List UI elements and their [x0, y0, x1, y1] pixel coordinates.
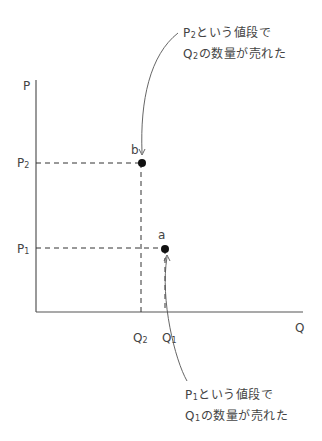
annotation-top-line2: Q2の数量が売れた [183, 45, 286, 66]
tick-q2: Q2 [133, 331, 148, 348]
annotation-bottom-line1: P1という値段で [185, 386, 288, 407]
callout-curve-top [142, 33, 178, 153]
point-a [161, 245, 169, 253]
x-axis-label: Q [295, 321, 304, 335]
annotation-top: P2という値段で Q2の数量が売れた [183, 24, 286, 66]
tick-q1: Q1 [162, 331, 177, 348]
tick-p2-sub: 2 [24, 161, 29, 170]
callout-curve-bottom [165, 257, 187, 381]
tick-p2: P2 [17, 156, 29, 173]
tick-p1-sub: 1 [24, 247, 29, 256]
annotation-bottom: P1という値段で Q1の数量が売れた [185, 386, 288, 428]
annotation-bottom-line2: Q1の数量が売れた [185, 407, 288, 428]
y-axis-label: P [23, 79, 30, 93]
point-a-label: a [158, 228, 165, 242]
diagram-canvas [0, 0, 322, 441]
tick-p1: P1 [17, 242, 29, 259]
point-b [138, 159, 146, 167]
tick-q2-sub: 2 [142, 336, 147, 345]
tick-q1-sub: 1 [171, 336, 176, 345]
point-b-label: b [131, 143, 139, 157]
annotation-top-line1: P2という値段で [183, 24, 286, 45]
